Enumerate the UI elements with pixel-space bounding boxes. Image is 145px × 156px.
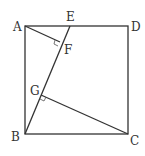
geometry-diagram: A E D F G B C xyxy=(0,0,145,156)
square-abcd xyxy=(25,26,128,134)
label-b: B xyxy=(11,130,20,144)
segment-af xyxy=(25,26,60,42)
label-d: D xyxy=(131,20,141,34)
segment-cg xyxy=(41,95,128,134)
label-g: G xyxy=(30,84,40,98)
label-a: A xyxy=(12,20,22,34)
label-c: C xyxy=(130,134,139,148)
label-e: E xyxy=(66,10,75,24)
right-angle-mark-g xyxy=(40,97,46,101)
label-f: F xyxy=(64,43,72,57)
